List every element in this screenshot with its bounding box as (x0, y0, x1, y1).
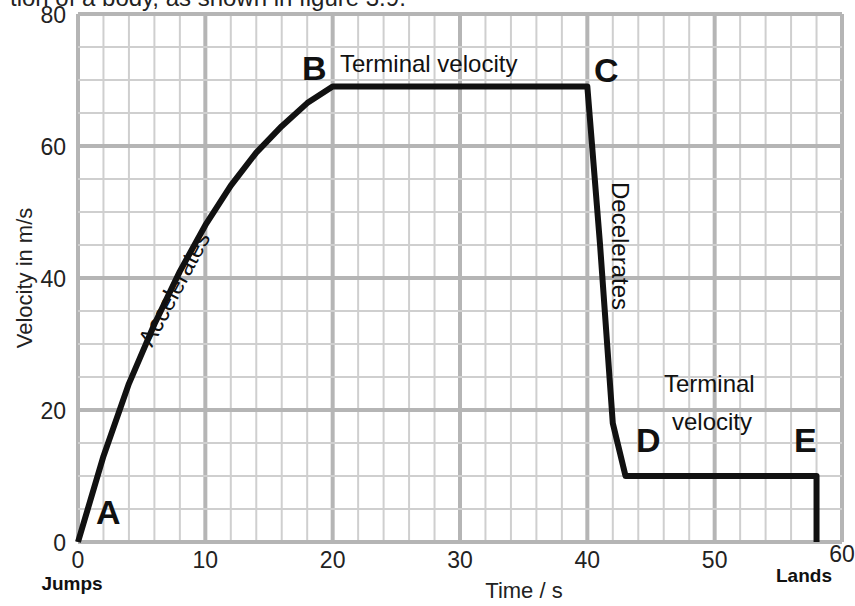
y-axis-ticks: 020406080 (40, 2, 66, 556)
point-b-label: B (302, 49, 327, 87)
svg-text:60: 60 (40, 134, 66, 160)
jumps-label: Jumps (41, 573, 102, 594)
svg-text:50: 50 (702, 547, 728, 573)
svg-text:0: 0 (72, 547, 85, 573)
point-c-label: C (594, 51, 619, 89)
svg-text:20: 20 (40, 398, 66, 424)
y-axis-label: Velocity in m/s (12, 208, 37, 349)
terminal-velocity-annotation-1: Terminal velocity (340, 50, 517, 77)
svg-text:0: 0 (53, 530, 66, 556)
point-a-label: A (96, 493, 121, 531)
terminal-annotation: Terminal (664, 370, 755, 397)
svg-text:40: 40 (575, 547, 601, 573)
svg-text:60: 60 (829, 541, 855, 567)
decelerates-annotation: Decelerates (607, 182, 634, 310)
clipped-caption: tion of a body, as shown in figure 3.9. (10, 0, 406, 11)
lands-label: Lands (776, 565, 832, 586)
velocity-time-chart: tion of a body, as shown in figure 3.9. … (0, 0, 855, 606)
velocity-annotation: velocity (672, 408, 752, 435)
svg-text:30: 30 (447, 547, 473, 573)
velocity-curve (78, 87, 817, 542)
svg-text:10: 10 (193, 547, 219, 573)
x-axis-label: Time / s (485, 578, 562, 603)
x-axis-ticks: 0102030405060 (72, 541, 855, 573)
point-d-label: D (636, 421, 661, 459)
point-e-label: E (794, 421, 817, 459)
svg-text:20: 20 (320, 547, 346, 573)
svg-text:80: 80 (40, 2, 66, 28)
svg-text:40: 40 (40, 266, 66, 292)
